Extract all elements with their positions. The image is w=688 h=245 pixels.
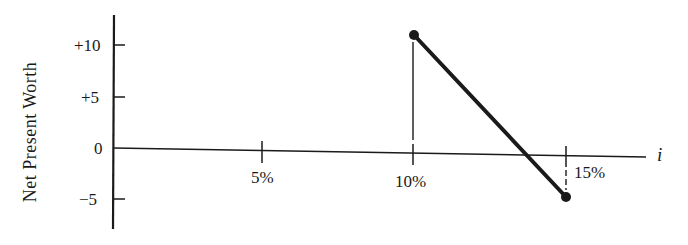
- point-15pct: [561, 192, 571, 202]
- x-label-15: 15%: [574, 163, 605, 183]
- point-10pct: [409, 30, 419, 40]
- x-label-5: 5%: [251, 168, 274, 188]
- x-label-10: 10%: [395, 172, 426, 192]
- y-label-0: 0: [94, 139, 103, 159]
- y-label-5: +5: [81, 88, 99, 108]
- y-label-minus5: −5: [79, 190, 97, 210]
- y-axis: [113, 15, 114, 229]
- x-axis-label: i: [657, 144, 662, 166]
- y-axis-label: Net Present Worth: [20, 62, 41, 203]
- npw-chart: [0, 0, 688, 245]
- y-label-10: +10: [74, 36, 101, 56]
- npw-line: [414, 35, 566, 197]
